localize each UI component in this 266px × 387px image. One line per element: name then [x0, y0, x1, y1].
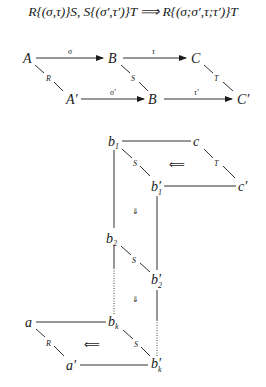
node-c: C [191, 51, 201, 66]
node-bk-prime: b′k [151, 356, 162, 374]
node-bk: bk [108, 314, 119, 331]
diagram-canvas: A B C A′ B C′ σ τ σ′ τ′ R S T [0, 0, 266, 387]
double-arrow-left-icon: ⟸ [169, 158, 185, 171]
relation-s-2 [121, 246, 131, 255]
node-b1: b1 [108, 134, 119, 151]
label-tau: τ [152, 47, 156, 56]
label-r: R [45, 74, 51, 83]
label-t: T [214, 74, 219, 83]
node-b-bottom: B [148, 92, 157, 107]
label-s: S [131, 74, 135, 83]
node-b2-prime: b′2 [151, 272, 162, 290]
label-tau-prime: τ′ [194, 88, 199, 97]
relation-s-1 [122, 149, 132, 158]
relation-r [36, 329, 45, 337]
label-sigma-prime: σ′ [110, 88, 116, 97]
node-c: c [193, 134, 200, 149]
relation-r-line [35, 65, 44, 73]
double-arrow-down-icon: ⇓ [132, 207, 139, 216]
relation-s-k [123, 330, 133, 339]
label-sigma: σ [68, 47, 73, 56]
node-a: A [22, 51, 32, 66]
label-s-1: S [133, 159, 137, 168]
node-b-top: B [108, 51, 117, 66]
node-a-prime: a′ [66, 358, 77, 373]
relation-t-line [204, 65, 213, 73]
relation-s-line [121, 65, 130, 73]
label-s-2: S [132, 256, 136, 265]
double-arrow-down-icon: ⇓ [132, 295, 139, 304]
node-c-prime: c′ [238, 179, 248, 194]
node-b1-prime: b′1 [151, 179, 162, 197]
relation-t [204, 149, 213, 158]
node-a-prime: A′ [65, 92, 79, 107]
node-b2: b2 [106, 231, 117, 248]
label-t: T [214, 159, 219, 168]
double-arrow-left-icon: ⟸ [84, 338, 100, 351]
node-a: a [25, 315, 32, 330]
label-r: R [45, 339, 51, 348]
label-s-k: S [134, 340, 138, 349]
bottom-diagram: b1 c b′1 c′ b2 b′2 bk b′k a a′ S T S S R… [25, 134, 248, 374]
node-c-prime: C′ [237, 92, 250, 107]
top-diagram: A B C A′ B C′ σ τ σ′ τ′ R S T [22, 47, 250, 107]
